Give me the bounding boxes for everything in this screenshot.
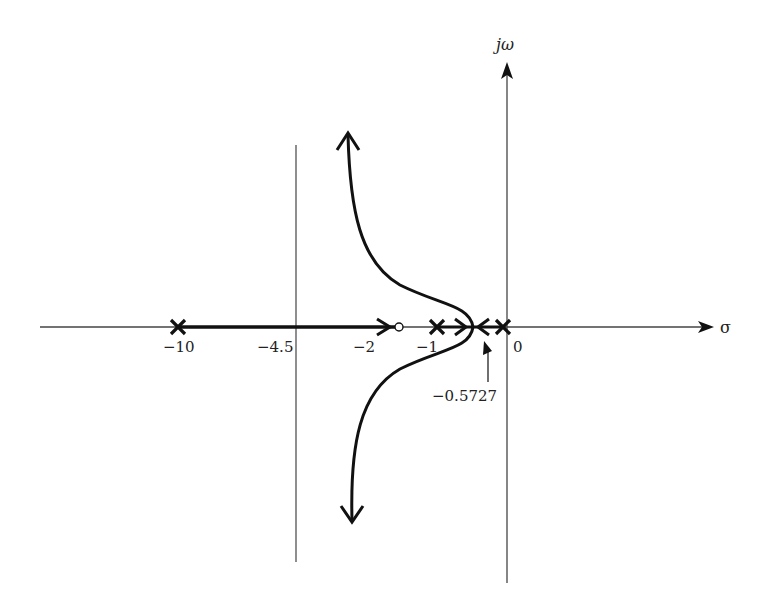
tick-label-neg2: −2 <box>353 338 375 356</box>
tick-label-neg4-5: −4.5 <box>257 338 293 356</box>
tick-label-neg1: −1 <box>416 338 438 356</box>
tick-label-zero: 0 <box>513 338 523 356</box>
locus-upper-branch <box>348 135 473 327</box>
root-locus-diagram: σ jω −10 −4.5 −2 −1 0 −0.5727 <box>0 0 764 613</box>
zero-circle-icon <box>395 323 403 331</box>
tick-label-neg10: −10 <box>163 338 195 356</box>
jomega-label: jω <box>493 35 514 54</box>
sigma-label: σ <box>720 318 731 337</box>
breakaway-label: −0.5727 <box>432 387 497 405</box>
breakaway-pointer-arrow-icon <box>483 341 492 355</box>
